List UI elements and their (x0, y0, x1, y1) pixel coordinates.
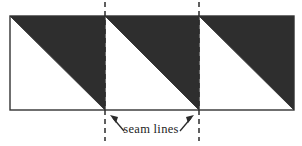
square-band (10, 16, 294, 110)
seam-lines-caption: seam lines (0, 123, 302, 136)
seam-lines-figure: seam lines (0, 0, 302, 146)
